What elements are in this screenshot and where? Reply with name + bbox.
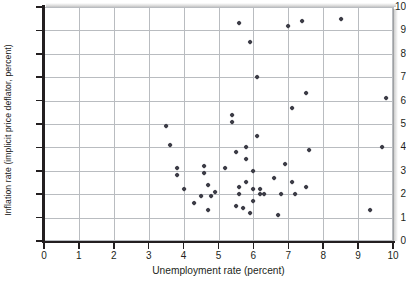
x-axis-tick: [288, 243, 290, 249]
x-axis-tick: [78, 243, 80, 249]
data-point: [233, 203, 239, 209]
y-axis-tick: [36, 30, 42, 32]
data-point: [236, 191, 242, 197]
x-axis-tick-label: 7: [276, 250, 300, 261]
gridline-horizontal: [44, 124, 393, 125]
data-point: [233, 149, 239, 155]
data-point: [163, 123, 169, 129]
y-axis-tick-label: 0: [372, 235, 406, 246]
gridline-horizontal: [44, 7, 393, 8]
data-point: [289, 105, 295, 111]
y-axis-tick: [36, 170, 42, 172]
data-point: [299, 18, 305, 24]
y-axis-tick: [36, 76, 42, 78]
x-axis-tick: [392, 243, 394, 249]
x-axis-tick-label: 3: [137, 250, 161, 261]
y-axis-tick-label: 8: [372, 48, 406, 59]
y-axis-tick-label: 10: [372, 1, 406, 12]
data-point: [285, 23, 291, 29]
y-axis-tick-label: 2: [372, 188, 406, 199]
data-point: [202, 163, 208, 169]
data-point: [338, 16, 344, 22]
data-point: [243, 144, 249, 150]
gridline-horizontal: [44, 147, 393, 148]
y-axis-tick: [36, 147, 42, 149]
y-axis-title: Inflation rate (implicit price deflator,…: [0, 0, 16, 260]
y-axis-tick-label: 3: [372, 165, 406, 176]
y-axis-tick: [36, 6, 42, 8]
gridline-horizontal: [44, 101, 393, 102]
data-point: [271, 175, 277, 181]
x-axis-tick-label: 8: [311, 250, 335, 261]
x-axis-tick-label: 0: [32, 250, 56, 261]
data-point: [243, 156, 249, 162]
gridline-horizontal: [44, 194, 393, 195]
data-point: [174, 173, 180, 179]
x-axis-tick-label: 10: [381, 250, 405, 261]
plot-area: [44, 7, 393, 241]
data-point: [289, 180, 295, 186]
y-axis-title-text: Inflation rate (implicit price deflator,…: [3, 44, 13, 216]
x-axis-tick: [218, 243, 220, 249]
x-axis-tick: [148, 243, 150, 249]
data-point: [303, 184, 309, 190]
data-point: [236, 20, 242, 26]
x-axis-tick-label: 5: [207, 250, 231, 261]
y-axis-tick: [36, 193, 42, 195]
gridline-horizontal: [44, 218, 393, 219]
x-axis-tick: [357, 243, 359, 249]
data-point: [236, 184, 242, 190]
y-axis-tick-label: 1: [372, 212, 406, 223]
gridline-horizontal: [44, 30, 393, 31]
data-point: [250, 168, 256, 174]
x-axis-tick-label: 2: [102, 250, 126, 261]
y-axis-tick-label: 6: [372, 95, 406, 106]
x-axis-tick-label: 4: [172, 250, 196, 261]
x-axis-tick-label: 6: [241, 250, 265, 261]
page-shadow-top: [46, 3, 396, 7]
y-axis-tick: [36, 53, 42, 55]
data-point: [282, 161, 288, 167]
data-point: [254, 74, 260, 80]
data-point: [247, 39, 253, 45]
y-axis-tick: [36, 123, 42, 125]
scatter-chart-figure: Inflation rate (implicit price deflator,…: [0, 0, 406, 287]
data-point: [261, 191, 267, 197]
y-axis-tick-label: 7: [372, 71, 406, 82]
y-axis-tick-label: 9: [372, 24, 406, 35]
data-point: [205, 208, 211, 214]
data-point: [250, 198, 256, 204]
y-axis-tick: [36, 217, 42, 219]
data-point: [254, 133, 260, 139]
y-axis-tick: [36, 240, 42, 242]
data-point: [243, 180, 249, 186]
gridline-horizontal: [44, 77, 393, 78]
data-point: [292, 191, 298, 197]
x-axis-tick: [322, 243, 324, 249]
x-axis-tick: [253, 243, 255, 249]
data-point: [229, 112, 235, 118]
x-axis-tick-label: 1: [67, 250, 91, 261]
x-axis-title: Unemployment rate (percent): [44, 265, 393, 276]
gridline-horizontal: [44, 54, 393, 55]
x-axis-tick: [43, 243, 45, 249]
data-point: [198, 194, 204, 200]
data-point: [181, 187, 187, 193]
y-axis-line: [42, 5, 45, 243]
data-point: [303, 91, 309, 97]
data-point: [278, 191, 284, 197]
data-point: [247, 210, 253, 216]
gridline-horizontal: [44, 171, 393, 172]
data-point: [240, 205, 246, 211]
x-axis-tick: [113, 243, 115, 249]
data-point: [205, 182, 211, 188]
data-point: [191, 201, 197, 207]
y-axis-tick: [36, 100, 42, 102]
x-axis-tick-label: 9: [346, 250, 370, 261]
y-axis-tick-label: 5: [372, 118, 406, 129]
y-axis-tick-label: 4: [372, 141, 406, 152]
x-axis-tick: [183, 243, 185, 249]
